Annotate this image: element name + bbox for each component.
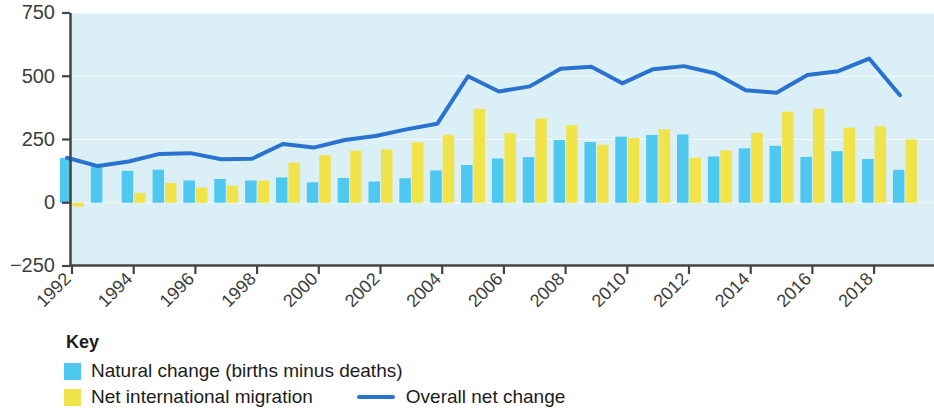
y-tick-label: −250	[10, 254, 55, 276]
bar-net-migration	[720, 150, 732, 202]
legend-label-overall-net-change: Overall net change	[406, 386, 566, 408]
legend-label-net-migration: Net international migration	[91, 386, 313, 408]
bar-net-migration	[134, 193, 146, 203]
bar-natural-change	[461, 165, 473, 203]
bar-net-migration	[319, 155, 331, 203]
bar-natural-change	[584, 142, 596, 203]
bar-natural-change	[430, 170, 442, 202]
bar-natural-change	[399, 178, 411, 203]
bar-natural-change	[338, 178, 350, 203]
bar-natural-change	[91, 164, 103, 203]
y-tick-label: 0	[44, 191, 55, 213]
x-tick-marks	[72, 266, 874, 274]
bar-net-migration	[258, 180, 270, 202]
bar-natural-change	[245, 180, 257, 202]
legend-swatch-overall-net-change	[357, 395, 395, 399]
bar-natural-change	[893, 170, 905, 203]
bar-net-migration	[905, 140, 917, 203]
bar-natural-change	[862, 159, 874, 203]
bar-net-migration	[474, 109, 486, 203]
y-tick-labels: −2500250500750	[10, 1, 55, 276]
bar-net-migration	[844, 128, 856, 203]
bar-net-migration	[535, 119, 547, 203]
bar-net-migration	[566, 125, 578, 203]
bar-natural-change	[708, 156, 720, 202]
legend-swatch-net-migration	[64, 389, 81, 406]
legend-label-natural-change: Natural change (births minus deaths)	[91, 360, 403, 382]
bar-net-migration	[751, 133, 763, 203]
bar-net-migration	[412, 142, 424, 202]
x-tick-label: 1994	[94, 269, 136, 311]
x-tick-label: 1998	[217, 269, 259, 311]
bar-natural-change	[214, 179, 226, 203]
legend-row-net-migration: Net international migration Overall net …	[64, 384, 565, 410]
bar-natural-change	[554, 140, 566, 203]
bar-net-migration	[165, 183, 177, 203]
y-tick-label: 250	[22, 128, 55, 150]
population-change-chart: −2500250500750 1992199419961998200020022…	[0, 0, 934, 414]
y-tick-marks	[62, 13, 70, 266]
x-tick-labels: 1992199419961998200020022004200620082010…	[32, 269, 877, 311]
x-tick-label: 2018	[834, 269, 876, 311]
chart-legend: Key Natural change (births minus deaths)…	[64, 332, 565, 410]
x-tick-label: 2008	[526, 269, 568, 311]
x-tick-label: 2012	[649, 269, 691, 311]
bar-natural-change	[739, 148, 751, 202]
bar-natural-change	[492, 158, 504, 202]
y-tick-label: 750	[22, 1, 55, 23]
bar-natural-change	[646, 135, 658, 203]
legend-row-natural-change: Natural change (births minus deaths)	[64, 358, 565, 384]
bar-net-migration	[628, 138, 640, 203]
bar-net-migration	[288, 163, 300, 203]
bar-net-migration	[227, 186, 239, 203]
bar-net-migration	[196, 188, 208, 203]
bar-natural-change	[615, 137, 627, 203]
bar-natural-change	[307, 182, 319, 202]
bar-natural-change	[153, 170, 165, 203]
x-tick-label: 2004	[403, 269, 445, 311]
bar-natural-change	[831, 151, 843, 203]
bar-net-migration	[73, 203, 85, 207]
bar-net-migration	[504, 133, 516, 203]
bar-natural-change	[122, 171, 134, 203]
bar-net-migration	[659, 129, 671, 202]
bar-net-migration	[443, 135, 455, 203]
legend-swatch-natural-change	[64, 363, 81, 380]
bar-net-migration	[350, 151, 362, 203]
bar-natural-change	[369, 182, 381, 203]
bar-net-migration	[690, 158, 702, 203]
bar-natural-change	[276, 177, 288, 202]
bar-net-migration	[597, 145, 609, 203]
x-tick-label: 2006	[464, 269, 506, 311]
bar-natural-change	[800, 157, 812, 203]
bar-natural-change	[523, 157, 535, 203]
bar-natural-change	[677, 134, 689, 202]
bar-net-migration	[381, 149, 393, 202]
legend-title: Key	[66, 332, 565, 353]
bar-net-migration	[782, 112, 794, 203]
x-tick-label: 2010	[588, 269, 630, 311]
x-tick-label: 2014	[711, 269, 753, 311]
x-tick-label: 2002	[341, 269, 383, 311]
x-tick-label: 2000	[279, 269, 321, 311]
bar-natural-change	[183, 180, 195, 202]
bar-net-migration	[813, 109, 825, 203]
x-tick-label: 2016	[773, 269, 815, 311]
bar-net-migration	[875, 126, 887, 202]
y-tick-label: 500	[22, 65, 55, 87]
x-tick-label: 1996	[156, 269, 198, 311]
bar-natural-change	[770, 146, 782, 203]
